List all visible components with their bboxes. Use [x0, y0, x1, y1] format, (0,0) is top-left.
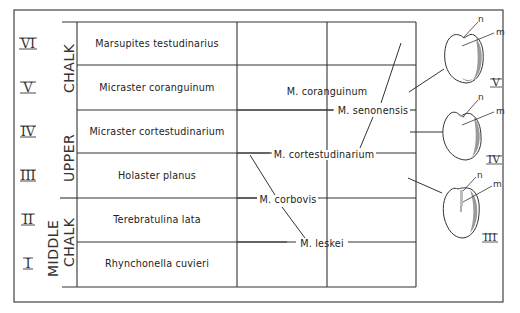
specimen-III-label-m: m: [493, 179, 502, 189]
specimen-IV-label-m: m: [496, 106, 505, 116]
specimen-III-drawing: n m III: [443, 170, 502, 244]
specimen-III-label-n: n: [477, 170, 483, 180]
specimen-V-label-m: m: [496, 27, 505, 37]
micraster-evolution-diagram: VI V IV III II I UPPER CHALK MIDDLE CHAL…: [0, 0, 520, 313]
species-cortestudinarium: M. cortestudinarium: [274, 149, 375, 160]
species-leskei: M. leskei: [300, 238, 344, 249]
division-label-upper-chalk-part2: CHALK: [61, 43, 77, 93]
zone-name-IV: Micraster cortestudinarium: [89, 126, 224, 137]
zone-name-II: Terebratulina lata: [112, 214, 201, 225]
division-label-middle: MIDDLE: [45, 220, 61, 277]
species-corbovis: M. corbovis: [260, 194, 317, 205]
division-label-upper-chalk-part1: UPPER: [61, 134, 77, 182]
specimen-IV-drawing: n m IV: [443, 92, 505, 166]
lineage-lines: [250, 43, 444, 238]
specimen-IV-label-n: n: [478, 92, 484, 102]
zone-name-VI: Marsupites testudinarius: [95, 38, 218, 49]
specimen-V-drawing: n m V: [445, 14, 505, 89]
outer-frame: [14, 10, 503, 302]
zone-numerals: VI V IV III II I: [19, 36, 37, 271]
species-senonensis: M. senonensis: [338, 105, 409, 116]
specimen-V-label-n: n: [478, 14, 484, 24]
zone-name-V: Micraster coranguinum: [99, 82, 214, 93]
zone-name-I: Rhynchonella cuvieri: [105, 258, 209, 269]
division-label-middle-chalk: CHALK: [61, 217, 77, 267]
zone-name-III: Holaster planus: [118, 170, 196, 181]
species-coranguinum: M. coranguinum: [287, 86, 368, 97]
